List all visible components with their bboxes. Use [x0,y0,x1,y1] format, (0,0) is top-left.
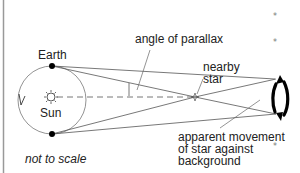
star-projection-line-bottom [195,97,276,114]
parallax-diagram-graphic: * * * [0,0,300,173]
apparent-label-leader [220,100,260,128]
apparent-movement-label-line3: background [178,155,241,168]
sight-line-top [52,66,275,79]
not-to-scale-note: not to scale [25,153,86,166]
background-star-icon: * [273,38,277,47]
earth-orbit [18,66,86,134]
sun-label: Sun [40,107,61,120]
sun-icon [44,90,58,104]
earth-dot-bottom-icon [49,131,55,137]
earth-label: Earth [38,49,67,62]
orbit-direction-arrow-icon [19,94,25,105]
nearby-star-label-line2: star [203,73,223,86]
angle-of-parallax-label: angle of parallax [135,33,223,46]
parallax-diagram: * * * Earth Sun angle of parallax nearby… [0,0,300,173]
background-star-icon: * [273,12,277,21]
earth-star-line-bottom [52,97,195,134]
earth-dot-top-icon [49,63,55,69]
angle-label-leader [137,50,150,90]
earth-star-line-top [52,66,195,97]
